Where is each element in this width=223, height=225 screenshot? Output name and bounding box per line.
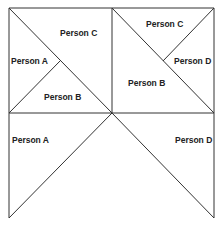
label-tr-person-b: Person B — [128, 79, 165, 88]
tr-inner-line — [163, 8, 214, 61]
tl-inner-line — [9, 61, 60, 113]
bottom-left-diagonal — [9, 113, 112, 218]
label-tl-person-a: Person A — [11, 57, 48, 66]
label-tr-person-d: Person D — [174, 57, 211, 66]
label-bl-person-a: Person A — [12, 136, 49, 145]
label-tr-person-c: Person C — [146, 20, 183, 29]
label-br-person-d: Person D — [175, 136, 212, 145]
label-tl-person-c: Person C — [60, 29, 97, 38]
region-diagram — [0, 0, 223, 225]
bottom-right-diagonal — [112, 113, 214, 218]
label-tl-person-b: Person B — [44, 93, 81, 102]
